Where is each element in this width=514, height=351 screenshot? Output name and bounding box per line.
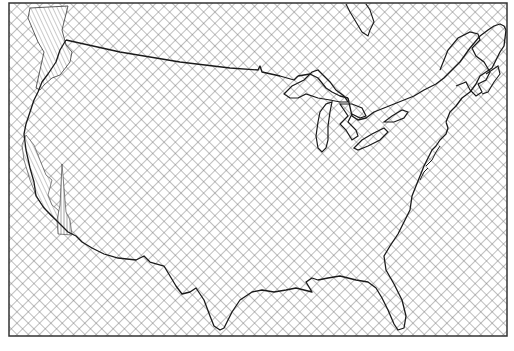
- map-container: [0, 0, 514, 351]
- us-map: [0, 0, 514, 351]
- crosshatch-field: [9, 3, 507, 336]
